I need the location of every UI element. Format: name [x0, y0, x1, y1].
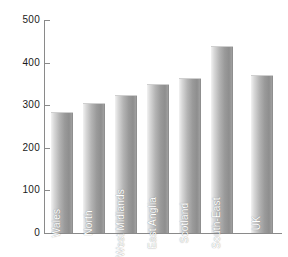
y-tick-label-wrap: 500	[0, 15, 40, 25]
bar-east-anglia[interactable]: East Anglia	[147, 84, 169, 233]
bar-label: Scotland	[179, 203, 190, 244]
y-tick-label: 0	[6, 228, 40, 238]
bar-label: East Anglia	[147, 197, 158, 249]
x-axis-line	[44, 233, 282, 234]
bar-label: South-East	[211, 197, 222, 248]
y-tick-0	[44, 233, 50, 234]
bar-uk[interactable]: UK	[251, 75, 273, 233]
y-tick-label-wrap: 400	[0, 58, 40, 68]
plot-area: WalesNorthWest MidlandsEast AngliaScotla…	[45, 20, 282, 233]
y-tick-label: 300	[6, 100, 40, 110]
y-tick-label: 200	[6, 143, 40, 153]
bar-south-east[interactable]: South-East	[211, 46, 233, 233]
bar-label: UK	[251, 216, 262, 230]
y-tick-label-wrap: 100	[0, 185, 40, 195]
y-tick-label-wrap: 0	[0, 228, 40, 238]
bar-north[interactable]: North	[83, 103, 105, 233]
y-tick-label-wrap: 200	[0, 143, 40, 153]
y-tick-label: 500	[6, 15, 40, 25]
bar-wales[interactable]: Wales	[51, 112, 73, 233]
y-tick-label-wrap: 300	[0, 100, 40, 110]
y-tick-label: 100	[6, 185, 40, 195]
y-tick-label: 400	[6, 58, 40, 68]
bar-scotland[interactable]: Scotland	[179, 78, 201, 233]
bar-west-midlands[interactable]: West Midlands	[115, 95, 137, 233]
bar-label: Wales	[51, 209, 62, 237]
bar-label: North	[83, 210, 94, 235]
bar-label: West Midlands	[115, 189, 126, 257]
